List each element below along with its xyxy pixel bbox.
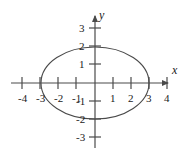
x-tick-label-neg2: -2 — [54, 93, 63, 104]
y-tick-label-neg3: -3 — [76, 132, 85, 143]
plot-canvas — [0, 0, 193, 159]
x-tick-label-neg4: -4 — [18, 93, 27, 104]
x-tick-label-3: 3 — [146, 93, 152, 104]
x-tick-label-4: 4 — [164, 93, 170, 104]
x-tick-label-neg3: -3 — [36, 93, 45, 104]
x-tick-label-2: 2 — [128, 93, 134, 104]
y-tick-label-1: 1 — [79, 59, 85, 70]
x-tick-label-1: 1 — [110, 93, 116, 104]
y-tick-label-neg1: -1 — [76, 96, 85, 107]
y-tick-label-2: 2 — [79, 41, 85, 52]
y-tick-label-neg2: -2 — [76, 114, 85, 125]
x-axis-label: x — [172, 64, 177, 76]
y-tick-label-3: 3 — [79, 23, 85, 34]
ellipse-coordinate-plot: -4 -3 -2 -1 1 2 3 4 3 2 1 -1 -2 -3 x y — [0, 0, 193, 159]
y-axis-label: y — [99, 9, 104, 21]
